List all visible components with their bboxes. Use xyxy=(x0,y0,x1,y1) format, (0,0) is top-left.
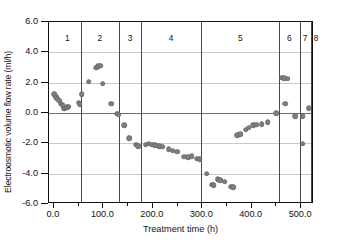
data-point xyxy=(79,92,85,98)
x-axis-tick xyxy=(102,203,103,208)
data-point xyxy=(211,183,217,189)
plot-area: 12345678 xyxy=(48,21,313,203)
data-point xyxy=(222,179,228,185)
data-point xyxy=(174,149,180,155)
data-point xyxy=(77,101,83,107)
data-point xyxy=(204,171,210,177)
region-label-1: 1 xyxy=(65,33,70,43)
data-point xyxy=(274,110,280,116)
y-axis-tick xyxy=(41,203,48,204)
x-axis-label: Treatment time (h) xyxy=(48,224,313,234)
y-axis-tick xyxy=(41,21,48,22)
x-axis-tick xyxy=(300,203,301,208)
region-divider-line xyxy=(141,22,142,202)
y-axis-tick xyxy=(41,173,48,174)
x-axis-tick xyxy=(152,203,153,208)
data-point xyxy=(159,144,165,150)
y-axis-tick-label: 6.0 xyxy=(25,16,38,26)
gridline-horizontal xyxy=(49,52,312,53)
x-axis-tick xyxy=(53,203,54,208)
data-point xyxy=(300,113,306,119)
region-label-6: 6 xyxy=(287,33,292,43)
x-axis-minor-tick xyxy=(78,203,79,206)
region-divider-line xyxy=(201,22,202,202)
x-axis-tick-label: 300.0 xyxy=(190,209,213,219)
data-point xyxy=(121,123,127,129)
x-axis-tick xyxy=(201,203,202,208)
y-axis-tick-label: 2.0 xyxy=(25,77,38,87)
data-point xyxy=(292,114,298,120)
region-label-3: 3 xyxy=(128,33,133,43)
y-axis-tick-label: 4.0 xyxy=(25,46,38,56)
region-divider-line xyxy=(311,22,312,202)
region-label-4: 4 xyxy=(169,33,174,43)
data-point xyxy=(265,119,271,125)
y-axis-tick-label: -6.0 xyxy=(22,198,38,208)
data-point xyxy=(135,143,141,149)
chart-figure: Electroosmotic volume flow rate (ml/h) T… xyxy=(0,0,337,244)
y-axis-tick-label: -2.0 xyxy=(22,137,38,147)
data-point xyxy=(66,104,72,110)
y-axis-tick-label: 0.0 xyxy=(25,107,38,117)
data-point xyxy=(306,105,312,111)
y-axis-tick xyxy=(41,82,48,83)
x-axis-tick-label: 100.0 xyxy=(91,209,114,219)
gridline-horizontal xyxy=(49,174,312,175)
y-axis-tick-label: -4.0 xyxy=(22,168,38,178)
x-axis-tick-label: 0.0 xyxy=(47,209,60,219)
data-point xyxy=(98,63,104,69)
y-axis-tick xyxy=(41,142,48,143)
data-point xyxy=(283,101,289,107)
data-point xyxy=(197,156,203,162)
region-label-8: 8 xyxy=(314,33,319,43)
x-axis-minor-tick xyxy=(127,203,128,206)
data-point xyxy=(259,121,265,127)
zero-reference-line xyxy=(49,113,312,114)
region-label-7: 7 xyxy=(303,33,308,43)
region-label-5: 5 xyxy=(238,33,243,43)
y-axis-tick xyxy=(41,112,48,113)
data-point xyxy=(238,131,244,137)
data-point xyxy=(231,185,237,191)
x-axis-tick-label: 200.0 xyxy=(140,209,163,219)
region-divider-line xyxy=(300,22,301,202)
x-axis-tick-label: 400.0 xyxy=(239,209,262,219)
x-axis-minor-tick xyxy=(275,203,276,206)
data-point xyxy=(126,135,132,141)
data-point xyxy=(100,81,106,87)
x-axis-tick-label: 500.0 xyxy=(289,209,312,219)
region-label-2: 2 xyxy=(98,33,103,43)
data-point xyxy=(285,76,291,82)
x-axis-minor-tick xyxy=(226,203,227,206)
x-axis-tick xyxy=(251,203,252,208)
y-axis-label: Electroosmotic volume flow rate (ml/h) xyxy=(0,0,16,244)
x-axis-minor-tick xyxy=(177,203,178,206)
data-point xyxy=(86,79,92,85)
data-point xyxy=(108,101,114,107)
data-point xyxy=(300,141,306,147)
data-point xyxy=(116,112,122,118)
y-axis-tick xyxy=(41,51,48,52)
gridline-horizontal xyxy=(49,143,312,144)
region-divider-line xyxy=(81,22,82,202)
